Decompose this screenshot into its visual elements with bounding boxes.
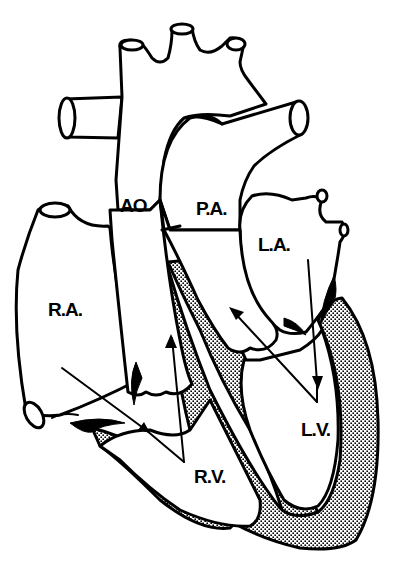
label-right-atrium: R.A. (48, 299, 82, 320)
label-left-atrium: L.A. (258, 234, 290, 255)
label-aorta: AO (120, 195, 147, 216)
label-right-ventricle: R.V. (194, 466, 225, 487)
label-pulmonary-artery: P.A. (196, 198, 227, 219)
heart-diagram: AO P.A. L.A. R.A. R.V. L.V. (0, 0, 393, 573)
vena-cava-left-vessel (59, 97, 122, 138)
label-left-ventricle: L.V. (301, 419, 330, 440)
